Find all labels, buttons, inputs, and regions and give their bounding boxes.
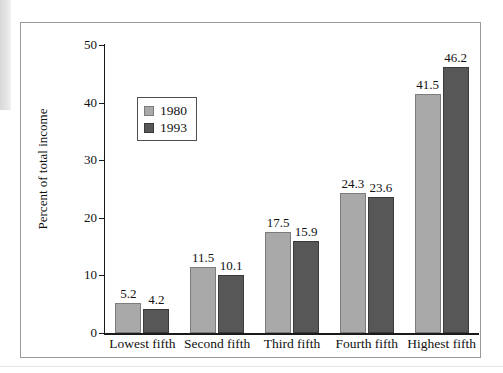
chart-legend: 1980 1993 (137, 97, 197, 141)
bar-1993-highest-fifth[interactable] (443, 67, 469, 333)
bar-1980-highest-fifth[interactable] (415, 94, 441, 333)
y-axis-tick-label: 30 (57, 153, 97, 166)
bar-1993-lowest-fifth[interactable] (143, 309, 169, 333)
bar-value-label: 15.9 (286, 225, 326, 238)
legend-swatch-icon-1980 (144, 106, 154, 116)
y-axis-title: Percent of total income (35, 79, 51, 259)
page-bottom-rule (0, 366, 503, 367)
y-axis-tick-label: 50 (57, 38, 97, 51)
bar-1980-third-fifth[interactable] (265, 232, 291, 333)
y-axis-tick-mark (99, 333, 105, 334)
bar-value-label: 4.2 (136, 293, 176, 306)
bar-value-label: 41.5 (408, 78, 448, 91)
legend-item-1980: 1980 (144, 102, 187, 119)
y-axis-tick-label: 20 (57, 211, 97, 224)
bar-1993-fourth-fifth[interactable] (368, 197, 394, 333)
figure-frame: Percent of total income 01020304050 5.24… (20, 22, 481, 358)
bar-value-label: 10.1 (211, 259, 251, 272)
bar-1993-third-fifth[interactable] (293, 241, 319, 333)
y-axis-tick-label: 40 (57, 96, 97, 109)
legend-label-1980: 1980 (160, 104, 187, 118)
bar-1993-second-fifth[interactable] (218, 275, 244, 333)
bar-chart: Percent of total income 01020304050 5.24… (21, 23, 480, 357)
legend-item-1993: 1993 (144, 119, 187, 136)
bar-value-label: 46.2 (436, 51, 476, 64)
x-axis-line (104, 333, 479, 335)
plot-area: 5.24.211.510.117.515.924.323.641.546.2 (105, 45, 479, 333)
legend-label-1993: 1993 (160, 121, 187, 135)
bar-1980-second-fifth[interactable] (190, 267, 216, 333)
figure-page: Percent of total income 01020304050 5.24… (0, 0, 503, 373)
bar-value-label: 23.6 (361, 181, 401, 194)
legend-swatch-icon-1993 (144, 123, 154, 133)
page-margin-strip (0, 0, 11, 110)
x-axis-tick-label: Highest fifth (382, 337, 502, 351)
y-axis-tick-label: 10 (57, 268, 97, 281)
bar-1980-fourth-fifth[interactable] (340, 193, 366, 333)
bar-1980-lowest-fifth[interactable] (115, 303, 141, 333)
